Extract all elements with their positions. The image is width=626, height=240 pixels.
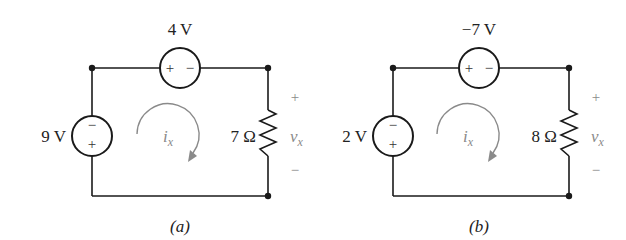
minus-sign: − — [186, 60, 194, 76]
minus-sign: − — [88, 117, 96, 133]
plus-sign: + — [389, 136, 397, 152]
loop-current-label: ix — [163, 127, 174, 149]
caption-a: (a) — [170, 217, 190, 236]
node-top-left-b — [390, 65, 396, 71]
left-source-label: 2 V — [342, 127, 367, 146]
voltage-source-top-a: + − — [160, 48, 200, 88]
plus-sign: + — [465, 60, 473, 76]
vx-minus: − — [291, 162, 299, 178]
voltage-source-left-b: − + — [373, 116, 413, 156]
voltage-source-top-b: + − — [459, 48, 499, 88]
voltage-source-left-a: − + — [72, 116, 112, 156]
node-top-right-b — [566, 65, 572, 71]
vx-label: vx — [591, 127, 605, 149]
left-source-label: 9 V — [41, 127, 66, 146]
vx-label: vx — [290, 127, 304, 149]
loop-current-label: ix — [463, 127, 474, 149]
circuit-b: + − −7 V − + 2 V 8 Ω + vx − ix (b) — [342, 20, 604, 236]
circuit-a: + − 4 V − + 9 V 7 Ω + vx − ix (a) — [41, 20, 303, 236]
resistor-icon — [561, 110, 577, 156]
vx-plus: + — [592, 89, 600, 105]
minus-sign: − — [485, 60, 493, 76]
caption-b: (b) — [469, 217, 489, 236]
node-top-right-a — [265, 65, 271, 71]
top-source-label: 4 V — [168, 20, 193, 39]
vx-minus: − — [592, 162, 600, 178]
loop-current-arrow-icon — [137, 104, 199, 162]
node-bottom-right-a — [265, 193, 271, 199]
minus-sign: − — [389, 117, 397, 133]
resistor-label: 7 Ω — [231, 127, 256, 146]
plus-sign: + — [88, 136, 96, 152]
loop-current-arrow-icon — [437, 104, 499, 162]
node-top-left-a — [89, 65, 95, 71]
vx-plus: + — [291, 89, 299, 105]
resistor-label: 8 Ω — [532, 127, 557, 146]
plus-sign: + — [166, 60, 174, 76]
top-source-label: −7 V — [462, 20, 497, 39]
node-bottom-right-b — [566, 193, 572, 199]
resistor-icon — [260, 110, 276, 156]
